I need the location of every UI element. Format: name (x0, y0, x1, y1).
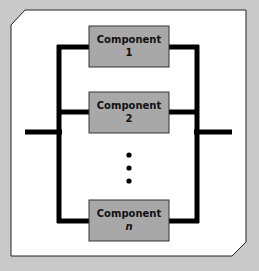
component-n-label: Component n (89, 207, 169, 233)
component-1-label: Component 1 (89, 33, 169, 59)
component-2-name: Component (97, 100, 161, 111)
component-1-name: Component (97, 34, 161, 45)
component-1-index: 1 (89, 46, 169, 59)
component-n-index: n (89, 220, 169, 233)
component-n-name: Component (97, 208, 161, 219)
ellipsis-dot (126, 165, 131, 170)
ellipsis-dot (126, 152, 131, 157)
component-2-label: Component 2 (89, 99, 169, 125)
ellipsis-dot (126, 178, 131, 183)
component-2-index: 2 (89, 112, 169, 125)
